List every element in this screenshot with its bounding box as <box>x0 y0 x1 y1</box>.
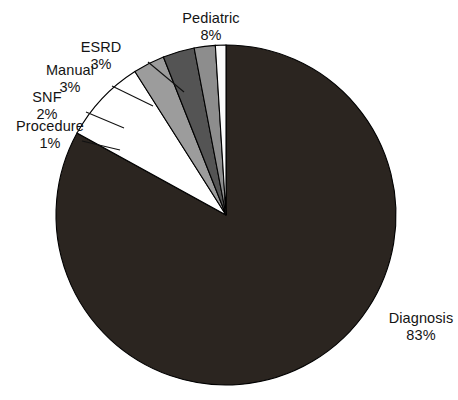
pie-label-procedure: Procedure 1% <box>0 118 104 152</box>
pie-label-pediatric-percent: 8% <box>156 27 266 44</box>
pie-label-diagnosis-name: Diagnosis <box>371 310 458 327</box>
pie-label-esrd-name: ESRD <box>46 39 156 56</box>
pie-label-pediatric-name: Pediatric <box>156 10 266 27</box>
pie-label-procedure-name: Procedure <box>0 118 104 135</box>
pie-label-diagnosis-percent: 83% <box>371 327 458 344</box>
pie-label-manual-name: Manual <box>10 62 130 79</box>
pie-label-diagnosis: Diagnosis 83% <box>371 310 458 344</box>
pie-label-pediatric: Pediatric 8% <box>156 10 266 44</box>
pie-label-procedure-percent: 1% <box>0 135 104 152</box>
pie-label-snf-name: SNF <box>0 89 102 106</box>
